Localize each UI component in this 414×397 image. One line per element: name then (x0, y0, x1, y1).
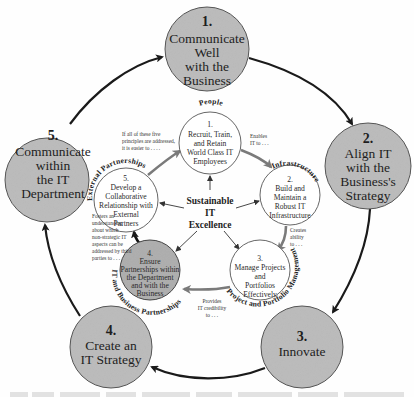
inner-node-2-line: Maintain a (274, 193, 307, 202)
outer-node-3-line: Innovate (278, 344, 325, 359)
spoke-to-inner-3 (224, 231, 239, 249)
arrow-outer-1-to-2 (249, 58, 352, 124)
inner-node-2-number: 2. (287, 175, 293, 184)
note-line: Enables (250, 133, 267, 139)
spoke-to-inner-4 (176, 231, 197, 251)
center-label-line: Sustainable (187, 196, 234, 206)
outer-node-1-number: 1. (202, 14, 213, 29)
inner-node-3-line: and (255, 272, 266, 281)
note-line: principles are addressed, (122, 138, 176, 144)
note-3-to-4: Provides IT credibility to . . . (198, 298, 227, 318)
note-line: understanding (92, 220, 123, 226)
inner-node-2-line: Robust IT (275, 202, 306, 211)
arrow-inner-1-to-2 (241, 150, 271, 167)
arrow-outer-4-to-5 (45, 225, 80, 316)
center-label: Sustainable IT Excellence (187, 196, 234, 230)
outer-node-1-line: Well (194, 45, 219, 60)
inner-node-4-line: Business (136, 289, 163, 298)
note-line: ability (290, 234, 304, 240)
spoke-to-inner-5 (160, 203, 184, 208)
outer-node-5-line: within (36, 158, 71, 173)
outer-node-2-line: with the (346, 160, 390, 175)
outer-node-5-line: Communicate (15, 144, 91, 159)
category-label-people: People (198, 97, 225, 108)
inner-node-1-line: Employees (193, 157, 227, 166)
outer-node-3-number: 3. (297, 329, 308, 344)
note-line: it is easier to . . . . (122, 145, 160, 151)
arrow-outer-2-to-3 (333, 209, 370, 312)
inner-node-2-line: Infrastructure (269, 211, 311, 220)
outer-node-4: 4. Create an IT Strategy (70, 306, 152, 388)
arrow-inner-3-to-4 (184, 287, 230, 290)
note-2-to-3: Creates ability to . . . (290, 227, 306, 247)
inner-node-1: 1. Recruit, Train, and Retain World Clas… (179, 112, 241, 174)
note-line: about which (92, 227, 119, 233)
outer-node-2-line: Align IT (345, 146, 393, 161)
it-excellence-diagram: 1. Communicate Well with the Business 2.… (0, 0, 414, 397)
outer-node-2-line: Business's (340, 174, 396, 189)
center-label-line: Excellence (189, 220, 232, 230)
inner-node-5-line: Relationship with (99, 201, 153, 210)
note-line: addressed by third (92, 248, 132, 254)
note-line: Provides (203, 298, 222, 304)
note-5-to-1: If all of these five principles are addr… (122, 131, 176, 151)
outer-node-1-line: Business (183, 73, 231, 88)
outer-node-1: 1. Communicate Well with the Business (165, 7, 249, 91)
cutoff-caption-line (10, 392, 404, 397)
note-line: Fosters an (92, 213, 114, 219)
outer-node-2-number: 2. (363, 131, 374, 146)
inner-node-3-line: Portfolios (245, 281, 275, 290)
inner-node-1-number: 1. (207, 120, 213, 129)
outer-node-4-number: 4. (106, 323, 117, 338)
outer-node-5-line: the IT (37, 172, 70, 187)
outer-node-5: 5. Communicate within the IT Department (5, 128, 91, 222)
outer-node-4-line: Create an (85, 338, 137, 353)
arrow-outer-3-to-4 (152, 367, 265, 378)
inner-node-2-line: Build and (275, 184, 305, 193)
outer-node-1-line: with the (185, 59, 229, 74)
inner-node-5-number: 5. (123, 174, 129, 183)
outer-node-5-number: 5. (48, 128, 59, 143)
arrow-outer-5-to-1 (70, 57, 162, 124)
outer-node-5-line: Department (21, 186, 85, 201)
outer-node-2-line: Strategy (346, 188, 391, 203)
inner-node-3-line: Manage Projects (235, 263, 286, 272)
inner-node-5-line: External (113, 210, 139, 219)
note-line: non-strategic IT (92, 234, 127, 240)
center-label-line: IT (205, 208, 216, 218)
note-line: IT credibility (198, 305, 227, 311)
outer-node-4-line: IT Strategy (81, 352, 142, 367)
note-1-to-2: Enables IT to . . . (250, 133, 269, 146)
note-line: to . . . (206, 312, 218, 318)
inner-node-1-line: World Class IT (187, 148, 234, 157)
note-line: IT to . . . (250, 140, 269, 146)
note-line: to . . . (290, 241, 302, 247)
inner-node-1-line: Recruit, Train, (188, 130, 232, 139)
arrow-inner-5-to-1 (148, 151, 180, 175)
note-line: Creates (290, 227, 306, 233)
outer-node-1-line: Communicate (169, 31, 245, 46)
inner-node-1-line: and Retain (194, 139, 227, 148)
note-line: aspects can be (92, 241, 123, 247)
inner-node-5-line: Develop a (111, 183, 143, 192)
outer-node-3: 3. Innovate (261, 306, 343, 388)
inner-node-5-line: Collaborative (105, 192, 147, 201)
spoke-to-inner-2 (236, 201, 259, 208)
inner-node-3-number: 3. (257, 254, 263, 263)
outer-node-2: 2. Align IT with the Business's Strategy (325, 123, 411, 209)
note-line: parties to . . . (92, 255, 120, 261)
note-line: If all of these five (122, 131, 161, 137)
